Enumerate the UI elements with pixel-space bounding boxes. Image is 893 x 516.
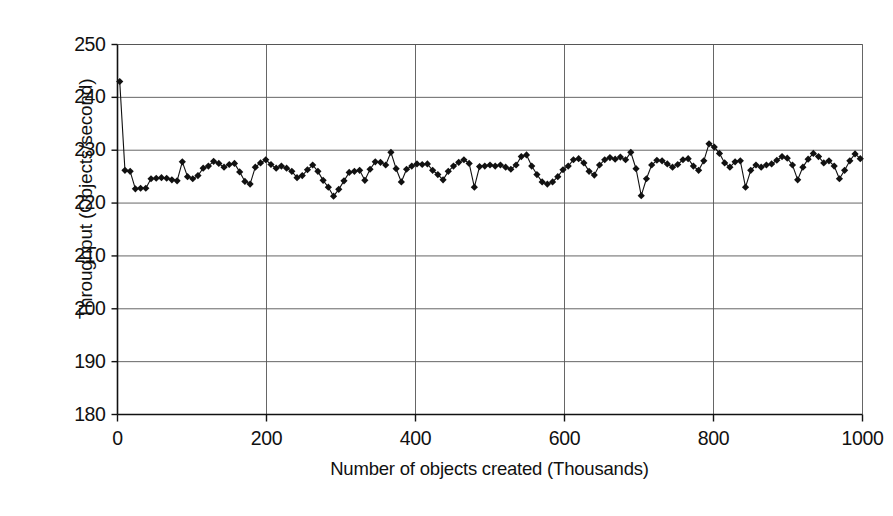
y-tick-label: 230 [54, 138, 106, 161]
y-tick-label: 250 [54, 33, 106, 56]
gridlines [118, 45, 863, 415]
x-axis-label: Number of objects created (Thousands) [117, 458, 862, 480]
y-tick-label: 180 [54, 403, 106, 426]
x-tick-label: 1000 [828, 427, 893, 450]
x-tick-label: 400 [381, 427, 451, 450]
x-tick-label: 0 [83, 427, 153, 450]
y-tick-label: 240 [54, 85, 106, 108]
x-tick-label: 600 [530, 427, 600, 450]
series-line [120, 82, 861, 197]
y-tick-label: 200 [54, 297, 106, 320]
series-markers [116, 78, 864, 200]
x-tick-label: 800 [679, 427, 749, 450]
y-tick-label: 220 [54, 191, 106, 214]
plot-frame [118, 45, 863, 415]
y-tick-label: 190 [54, 350, 106, 373]
axis-tick-marks [112, 45, 863, 422]
chart-figure: Throughput (Objects/second) 180190200210… [0, 0, 893, 516]
x-tick-label: 200 [232, 427, 302, 450]
y-tick-label: 210 [54, 244, 106, 267]
